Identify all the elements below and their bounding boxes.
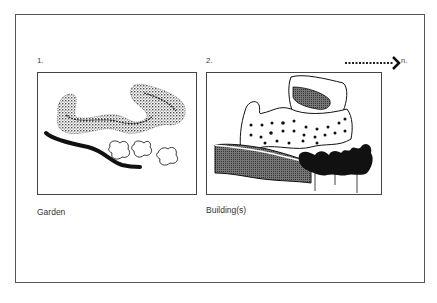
shrub-1 xyxy=(109,141,130,159)
panel-garden xyxy=(37,72,197,195)
dotted-arrow-icon xyxy=(345,56,405,70)
hedge-shape xyxy=(57,84,185,133)
buildings-sketch xyxy=(207,73,383,196)
arrow-label: n. xyxy=(401,56,407,65)
panel-buildings xyxy=(206,72,382,195)
panel-1-number: 1. xyxy=(37,56,44,65)
garden-sketch xyxy=(38,73,198,196)
shrub-3 xyxy=(157,147,178,165)
panel-1-caption: Garden xyxy=(37,207,65,217)
panel-2-number: 2. xyxy=(206,56,213,65)
panel-2-caption: Building(s) xyxy=(206,205,246,215)
shrub-2 xyxy=(132,141,152,157)
tree-mass xyxy=(299,144,373,175)
front-wall xyxy=(215,144,311,183)
